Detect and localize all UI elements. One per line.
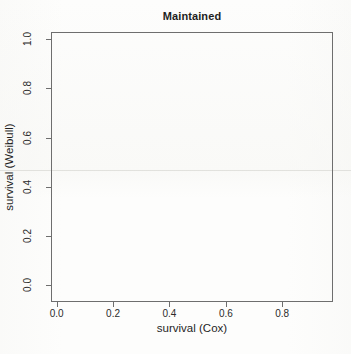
plot-area bbox=[52, 33, 332, 301]
x-tick-label: 0.6 bbox=[206, 308, 246, 319]
y-tick-mark bbox=[46, 39, 51, 40]
y-tick-label: 0.4 bbox=[22, 170, 33, 204]
x-tick-mark bbox=[113, 302, 114, 307]
y-tick-mark bbox=[46, 236, 51, 237]
x-tick-label: 0.4 bbox=[149, 308, 189, 319]
x-tick-mark bbox=[226, 302, 227, 307]
chart-title: Maintained bbox=[51, 10, 333, 22]
y-tick-label: 0.2 bbox=[22, 219, 33, 253]
x-tick-mark bbox=[282, 302, 283, 307]
y-tick-mark bbox=[46, 187, 51, 188]
x-tick-label: 0.0 bbox=[37, 308, 77, 319]
x-tick-mark bbox=[169, 302, 170, 307]
y-tick-label: 0.6 bbox=[22, 121, 33, 155]
y-tick-label: 0.0 bbox=[22, 268, 33, 302]
x-tick-mark bbox=[57, 302, 58, 307]
y-tick-mark bbox=[46, 138, 51, 139]
y-tick-mark bbox=[46, 88, 51, 89]
chart-figure: Maintained 0.00.20.40.60.8 0.00.20.40.60… bbox=[0, 0, 351, 354]
x-tick-label: 0.8 bbox=[262, 308, 302, 319]
y-tick-label: 0.8 bbox=[22, 71, 33, 105]
x-axis-title: survival (Cox) bbox=[51, 322, 333, 334]
y-tick-label: 1.0 bbox=[22, 22, 33, 56]
plot-box bbox=[51, 32, 333, 302]
x-tick-label: 0.2 bbox=[93, 308, 133, 319]
y-tick-mark bbox=[46, 285, 51, 286]
y-axis-title: survival (Weibull) bbox=[0, 32, 18, 302]
